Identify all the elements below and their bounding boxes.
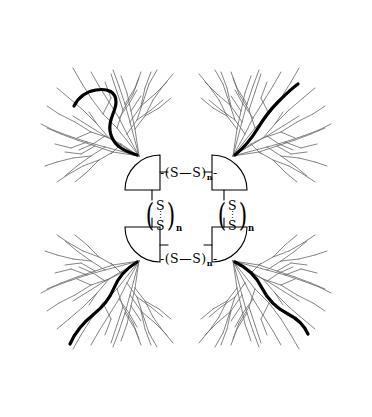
vlink-atom-bottom: S	[228, 219, 237, 232]
hlink-tail: -	[213, 251, 218, 266]
core-top-left	[125, 155, 160, 190]
vlink-atom-stack: S ⋮ S	[228, 199, 237, 232]
vlink-paren-open: (	[218, 200, 226, 231]
hlink-atom-a: S	[170, 165, 179, 180]
hlink-open: -(	[160, 251, 170, 266]
vlink-paren-open: (	[146, 200, 154, 231]
vlink-paren-close: )	[167, 200, 175, 231]
vlink-atom-stack: S ⋮ S	[156, 199, 165, 232]
horizontal-linker-bottom: -(S—S)n-	[160, 251, 218, 268]
vertical-linker-right: ( S ⋮ S )n	[208, 199, 262, 233]
bold-chain-bottom-right	[235, 262, 308, 334]
hlink-tail: -	[213, 165, 218, 180]
hlink-atom-a: S	[170, 251, 179, 266]
horizontal-linker-top: -(S—S)n-	[160, 165, 218, 182]
hlink-bond: —	[179, 165, 192, 180]
hlink-open: -(	[160, 165, 170, 180]
hlink-atom-b: S	[192, 165, 201, 180]
bold-chain-bottom-left	[70, 262, 137, 344]
chemical-structure-figure: -(S—S)n- -(S—S)n- ( S ⋮ S )n ( S ⋮ S )n	[0, 0, 372, 417]
hlink-bond: —	[179, 251, 192, 266]
vertical-linker-left: ( S ⋮ S )n	[136, 199, 190, 233]
vlink-paren-close: )	[239, 200, 247, 231]
vlink-subscript: n	[176, 224, 182, 233]
vlink-atom-bottom: S	[156, 219, 165, 232]
hlink-atom-b: S	[192, 251, 201, 266]
vlink-subscript: n	[248, 224, 254, 233]
